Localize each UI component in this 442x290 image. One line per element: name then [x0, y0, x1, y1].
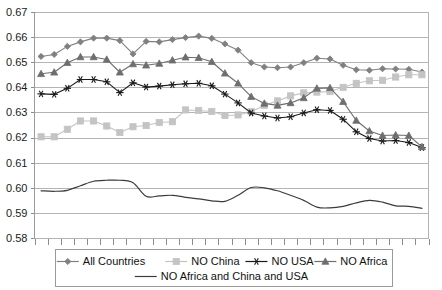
- data-point-marker-square: [130, 124, 136, 130]
- data-point-marker-square: [64, 126, 70, 132]
- line-chart: 0.670.660.650.640.630.620.610.600.590.58…: [0, 0, 442, 290]
- y-axis: 0.670.660.650.640.630.620.610.600.590.58: [6, 6, 34, 244]
- data-point-marker-diamond: [393, 66, 399, 72]
- y-axis-tick-label: 0.66: [6, 31, 27, 43]
- data-point-marker-star: [37, 91, 44, 97]
- y-axis-tick-label: 0.63: [6, 106, 27, 118]
- data-point-marker-star: [51, 91, 58, 97]
- data-point-marker-diamond: [209, 35, 215, 41]
- data-point-marker-diamond: [104, 35, 110, 41]
- y-axis-tick-label: 0.64: [6, 81, 27, 93]
- y-axis-tick-label: 0.61: [6, 157, 27, 169]
- data-point-marker-square: [209, 108, 215, 114]
- legend-item-no-africa-and-china-and-usa[interactable]: NO Africa and China and USA: [135, 270, 309, 282]
- data-point-marker-square: [288, 93, 294, 99]
- chart-legend: All CountriesNO ChinaNO USANO AfricaNO A…: [56, 250, 393, 287]
- series-line: [41, 80, 422, 148]
- data-point-marker-square: [393, 74, 399, 80]
- data-point-marker-diamond: [196, 33, 202, 39]
- series-no-africa: [38, 53, 426, 149]
- series-line: [41, 180, 422, 208]
- data-point-marker-square: [51, 134, 57, 140]
- data-point-marker-square: [235, 112, 241, 118]
- data-point-marker-square: [77, 118, 83, 124]
- data-point-marker-square: [353, 80, 359, 86]
- data-point-marker-square: [366, 78, 372, 84]
- data-point-marker-triangle: [51, 69, 58, 75]
- legend-label: NO Africa: [340, 255, 388, 267]
- data-point-marker-triangle: [130, 60, 137, 66]
- data-point-marker-square: [406, 72, 412, 78]
- series-no-africa-and-china-and-usa: [41, 180, 422, 208]
- data-point-marker-star: [274, 115, 281, 121]
- data-point-marker-diamond: [353, 67, 359, 73]
- data-point-marker-diamond: [261, 64, 267, 70]
- data-point-marker-square: [104, 123, 110, 129]
- data-point-marker-diamond: [366, 67, 372, 73]
- series-line: [41, 36, 422, 72]
- data-point-marker-star: [195, 80, 202, 86]
- data-point-marker-star: [142, 84, 149, 90]
- data-point-marker-diamond: [64, 43, 70, 49]
- data-point-marker-square: [419, 72, 425, 78]
- y-axis-tick-label: 0.60: [6, 182, 27, 194]
- data-point-marker-star: [300, 110, 307, 116]
- data-point-marker-square: [196, 107, 202, 113]
- y-axis-tick-label: 0.65: [6, 56, 27, 68]
- data-point-marker-diamond: [379, 66, 385, 72]
- data-point-marker-diamond: [77, 39, 83, 45]
- legend-label: All Countries: [83, 255, 146, 267]
- plot-frame: [35, 13, 429, 239]
- data-point-marker-square: [173, 258, 179, 264]
- data-point-marker-star: [366, 135, 373, 141]
- x-axis: [36, 239, 430, 245]
- data-point-marker-star: [182, 81, 189, 87]
- legend-label: NO USA: [271, 255, 314, 267]
- y-axis-tick-label: 0.59: [6, 207, 27, 219]
- data-point-marker-star: [261, 113, 268, 119]
- data-point-marker-diamond: [222, 41, 228, 47]
- data-point-marker-diamond: [301, 60, 307, 66]
- data-point-marker-square: [182, 107, 188, 113]
- data-point-marker-square: [340, 84, 346, 90]
- data-point-marker-star: [405, 139, 412, 145]
- data-point-marker-square: [38, 134, 44, 140]
- data-point-marker-star: [379, 138, 386, 144]
- legend-label: NO Africa and China and USA: [161, 270, 309, 282]
- data-point-marker-square: [156, 119, 162, 125]
- data-point-marker-diamond: [314, 55, 320, 61]
- data-point-marker-square: [169, 119, 175, 125]
- data-point-marker-diamond: [182, 35, 188, 41]
- data-point-marker-diamond: [327, 56, 333, 62]
- data-point-marker-diamond: [38, 53, 44, 59]
- series-all-countries: [38, 33, 425, 75]
- legend-label: NO China: [191, 255, 240, 267]
- series-layer: [37, 33, 425, 208]
- data-point-marker-square: [379, 77, 385, 83]
- data-point-marker-star: [169, 82, 176, 88]
- plot-area-border: [35, 13, 429, 239]
- data-point-marker-square: [222, 112, 228, 118]
- y-axis-tick-label: 0.62: [6, 131, 27, 143]
- data-point-marker-star: [287, 114, 294, 120]
- data-point-marker-star: [90, 76, 97, 82]
- data-point-marker-square: [117, 129, 123, 135]
- data-point-marker-triangle: [235, 80, 242, 86]
- y-axis-tick-label: 0.58: [6, 232, 27, 244]
- data-point-marker-diamond: [288, 64, 294, 70]
- data-point-marker-star: [313, 106, 320, 112]
- data-point-marker-diamond: [156, 39, 162, 45]
- data-point-marker-diamond: [91, 35, 97, 41]
- y-axis-tick-label: 0.67: [6, 6, 27, 18]
- chart-canvas: 0.670.660.650.640.630.620.610.600.590.58…: [0, 0, 442, 290]
- data-point-marker-diamond: [274, 65, 280, 71]
- data-point-marker-square: [143, 122, 149, 128]
- data-point-marker-square: [91, 118, 97, 124]
- data-point-marker-diamond: [51, 51, 57, 57]
